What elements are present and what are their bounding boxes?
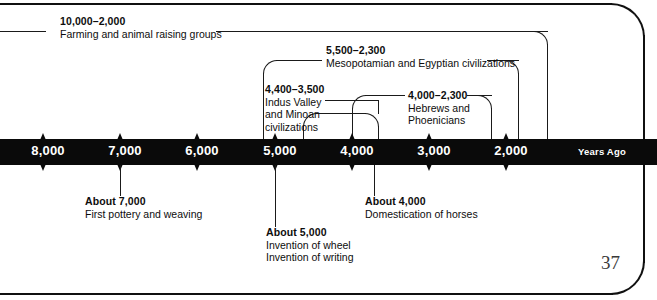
event-pottery-leader <box>120 165 121 196</box>
band-mesopotamia-left-lead <box>276 60 322 61</box>
band-hebrews-desc-line-2: Phoenicians <box>408 114 470 127</box>
band-farming-corner <box>534 31 548 45</box>
band-label-farming: 10,000–2,000 Farming and animal raising … <box>60 15 222 40</box>
event-wheel-desc-line-1: Invention of wheel <box>266 239 354 252</box>
band-indus-desc-line-2: and Minoan <box>265 108 325 121</box>
tick-label-2000: 2,000 <box>494 143 528 158</box>
tick-label-5000: 5,000 <box>263 143 297 158</box>
event-wheel-leader <box>275 165 276 227</box>
event-horses-range: About 4,000 <box>365 195 478 208</box>
page-frame-bottom-rule <box>0 293 613 295</box>
band-label-mesopotamia: 5,500–2,300 Mesopotamian and Egyptian ci… <box>326 44 515 69</box>
event-label-wheel: About 5,000 Invention of wheel Invention… <box>266 226 354 264</box>
band-hebrews-right-leg <box>491 108 492 140</box>
tick-label-6000: 6,000 <box>185 143 219 158</box>
band-farming-right-leg <box>547 44 548 140</box>
band-indus-range: 4,400–3,500 <box>265 83 325 96</box>
axis-unit-label: Years Ago <box>578 146 626 157</box>
band-hebrews-range: 4,000–2,300 <box>408 89 470 102</box>
page-frame-corner-top-right <box>611 3 645 37</box>
tick-label-4000: 4,000 <box>340 143 374 158</box>
event-wheel-desc-line-2: Invention of writing <box>266 251 354 264</box>
band-label-indus: 4,400–3,500 Indus Valley and Minoan civi… <box>265 83 325 133</box>
tick-label-8000: 8,000 <box>31 143 65 158</box>
band-indus-right-leg <box>378 126 379 140</box>
band-mesopotamia-right-leg <box>518 73 519 140</box>
event-pottery-range: About 7,000 <box>85 195 202 208</box>
band-hebrews-left-corner <box>352 95 366 109</box>
timeline-page: 10,000–2,000 Farming and animal raising … <box>0 0 657 300</box>
band-mesopotamia-left-leg <box>263 73 264 140</box>
band-hebrews-left-lead <box>365 95 405 96</box>
tick-label-7000: 7,000 <box>108 143 142 158</box>
band-hebrews-desc-line-1: Hebrews and <box>408 102 470 115</box>
band-mesopotamia-left-corner <box>263 60 277 74</box>
band-indus-desc-line-1: Indus Valley <box>265 96 325 109</box>
band-label-hebrews: 4,000–2,300 Hebrews and Phoenicians <box>408 89 470 127</box>
band-mesopotamia-desc: Mesopotamian and Egyptian civilizations <box>326 57 515 70</box>
band-hebrews-right-corner <box>478 95 492 109</box>
band-farming-range: 10,000–2,000 <box>60 15 222 28</box>
band-indus-right-corner <box>365 113 379 127</box>
page-frame-top-rule <box>0 3 612 5</box>
event-wheel-range: About 5,000 <box>266 226 354 239</box>
event-label-pottery: About 7,000 First pottery and weaving <box>85 195 202 220</box>
band-farming-left-lead <box>0 31 46 32</box>
event-horses-desc-line-1: Domestication of horses <box>365 208 478 221</box>
timeline-bar <box>0 139 657 165</box>
tick-label-3000: 3,000 <box>417 143 451 158</box>
band-farming-right-lead <box>216 31 548 32</box>
page-number: 37 <box>601 252 620 274</box>
band-indus-label-lead <box>325 100 379 101</box>
band-mesopotamia-range: 5,500–2,300 <box>326 44 515 57</box>
event-pottery-desc-line-1: First pottery and weaving <box>85 208 202 221</box>
band-farming-desc: Farming and animal raising groups <box>60 28 222 41</box>
band-indus-desc-line-3: civilizations <box>265 121 325 134</box>
event-horses-leader <box>374 165 375 196</box>
band-indus-riser <box>378 100 379 114</box>
event-label-horses: About 4,000 Domestication of horses <box>365 195 478 220</box>
